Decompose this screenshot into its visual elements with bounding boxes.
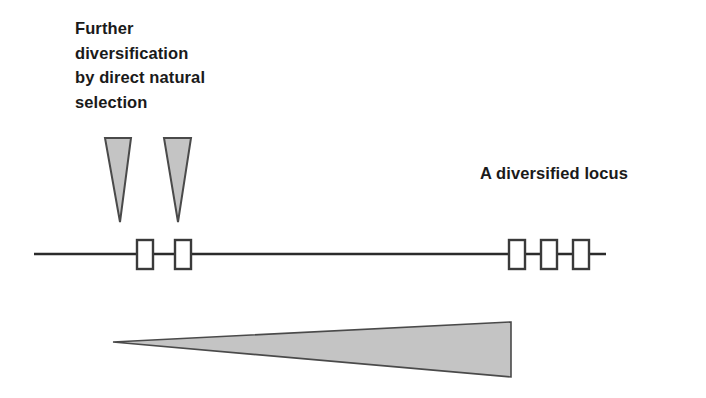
diagram-canvas: Further diversification by direct natura…	[0, 0, 706, 398]
divergence-wedge	[113, 322, 511, 377]
selection-triangle-1	[105, 138, 131, 222]
locus-box-right-3	[573, 240, 589, 269]
locus-box-right-2	[541, 240, 557, 269]
selection-arrow-group	[105, 138, 191, 222]
locus-box-right-1	[509, 240, 525, 269]
locus-box-left-2	[175, 240, 191, 269]
selection-triangle-2	[164, 138, 191, 222]
diagram-graphics-layer	[0, 0, 706, 398]
locus-box-left-1	[137, 240, 153, 269]
